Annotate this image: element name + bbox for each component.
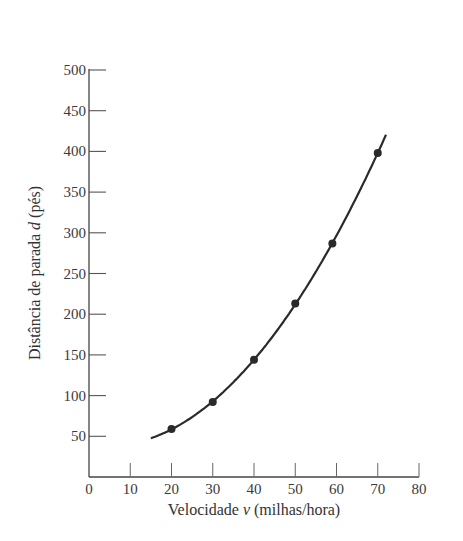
x-tick-label: 70 xyxy=(370,481,385,497)
x-tick-label: 30 xyxy=(205,481,220,497)
axes xyxy=(89,69,419,477)
y-axis-title: Distância de parada d (pés) xyxy=(26,186,44,360)
x-axis-title: Velocidade v (milhas/hora) xyxy=(168,501,340,519)
x-tick-label: 20 xyxy=(164,481,179,497)
stopping-distance-chart: 50100150200250300350400450500 0102030405… xyxy=(0,0,463,541)
data-points xyxy=(168,149,382,433)
y-tick-label: 150 xyxy=(64,347,87,363)
data-point xyxy=(291,300,299,308)
x-tick-label: 10 xyxy=(123,481,138,497)
data-point xyxy=(168,425,176,433)
y-tick-label: 250 xyxy=(64,266,87,282)
y-tick-label: 300 xyxy=(64,225,87,241)
data-point xyxy=(328,239,336,247)
data-point xyxy=(250,356,258,364)
data-point xyxy=(209,398,217,406)
y-tick-label: 400 xyxy=(64,143,87,159)
y-ticks: 50100150200250300350400450500 xyxy=(64,62,107,444)
data-point xyxy=(374,149,382,157)
y-tick-label: 50 xyxy=(71,428,86,444)
fitted-curve xyxy=(151,135,386,439)
x-tick-label: 40 xyxy=(247,481,262,497)
x-tick-label: 50 xyxy=(288,481,303,497)
x-ticks: 01020304050607080 xyxy=(85,463,426,497)
y-tick-label: 450 xyxy=(64,103,87,119)
x-tick-label: 60 xyxy=(329,481,344,497)
x-tick-label: 0 xyxy=(85,481,93,497)
x-tick-label: 80 xyxy=(412,481,427,497)
y-tick-label: 200 xyxy=(64,306,87,322)
y-tick-label: 100 xyxy=(64,388,87,404)
y-tick-label: 350 xyxy=(64,184,87,200)
y-tick-label: 500 xyxy=(64,62,87,78)
